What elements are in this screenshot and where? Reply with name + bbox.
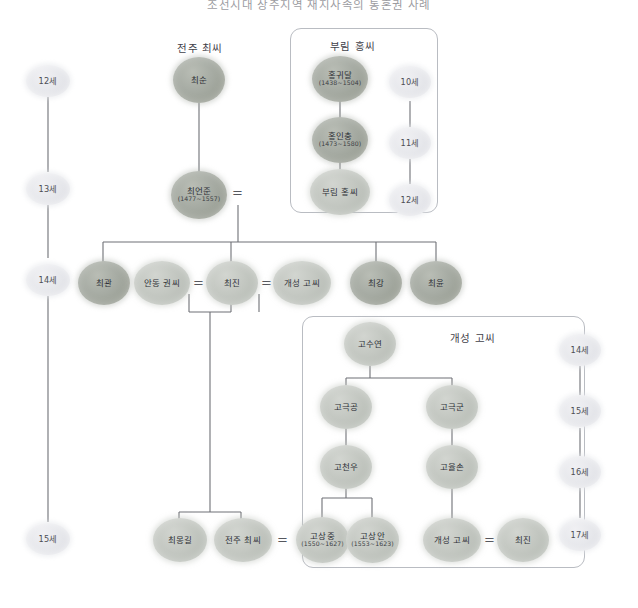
person-name: 부림 홍씨 <box>322 188 358 197</box>
person-node-gaeseong-go-bottom: 개성 고씨 <box>423 518 481 562</box>
gen-node-label: 14세 <box>570 346 589 355</box>
person-node-hong-gwidal: 홍귀달 (1438~1504) <box>312 56 368 102</box>
page-title: 조선시대 상주지역 재지사족의 통혼권 사례 <box>0 0 638 12</box>
gen-node-hong-10: 10세 <box>389 66 431 98</box>
person-name: 고수연 <box>358 340 383 349</box>
person-node-go-sangan: 고상안 (1553~1623) <box>346 517 399 563</box>
person-name: 전주 최씨 <box>225 536 261 545</box>
person-name: 안동 권씨 <box>144 279 180 288</box>
person-name: 최관 <box>96 279 112 288</box>
person-node-choi-monggil: 최몽길 <box>153 518 207 562</box>
person-name: 최윤 <box>428 279 444 288</box>
person-name: 최강 <box>368 279 384 288</box>
marriage-symbol-choi-jin-go: = <box>261 276 272 289</box>
gen-node-label: 13세 <box>38 185 57 194</box>
clan-label-hong: 부림 홍씨 <box>330 38 375 53</box>
person-node-go-geukgun: 고극군 <box>426 385 478 429</box>
person-name: 최진 <box>224 279 240 288</box>
marriage-symbol-go-choi-jin: = <box>484 533 495 546</box>
person-name: 개성 고씨 <box>284 279 320 288</box>
person-node-jeonju-choi-wife: 전주 최씨 <box>214 518 272 562</box>
gen-node-label: 17세 <box>570 531 589 540</box>
person-node-go-suyeon: 고수연 <box>344 322 396 366</box>
gen-node-label: 14세 <box>38 276 57 285</box>
person-name: 고극공 <box>334 403 359 412</box>
person-name: 고율손 <box>440 463 465 472</box>
gen-node-left-14: 14세 <box>26 264 70 296</box>
person-name: 최몽길 <box>168 536 193 545</box>
marriage-symbol-gwon-choi-jin: = <box>193 276 204 289</box>
marriage-symbol-choi-eonjun-hong: = <box>232 186 243 199</box>
gen-node-left-13: 13세 <box>26 173 70 205</box>
person-node-hong-inchung: 홍인충 (1473~1580) <box>312 117 368 163</box>
person-years: (1438~1504) <box>319 80 362 87</box>
person-node-gaeseong-go: 개성 고씨 <box>273 261 331 305</box>
person-node-choi-gwan: 최관 <box>78 261 130 305</box>
person-node-hong-clan-wife: 부림 홍씨 <box>310 169 370 215</box>
gen-node-label: 12세 <box>400 196 419 205</box>
gen-node-right-14: 14세 <box>559 334 601 366</box>
gen-node-right-17: 17세 <box>559 519 601 551</box>
gen-node-label: 11세 <box>400 139 419 148</box>
person-years: (1553~1623) <box>351 541 394 548</box>
gen-node-right-15: 15세 <box>559 395 601 427</box>
gen-node-label: 16세 <box>570 468 589 477</box>
gen-node-left-12: 12세 <box>26 65 70 97</box>
gen-node-hong-12: 12세 <box>389 184 431 216</box>
clan-label-go: 개성 고씨 <box>450 330 495 345</box>
person-node-go-cheonu: 고천우 <box>320 445 372 489</box>
person-name: 최진 <box>515 536 531 545</box>
person-node-choi-eonjun: 최언준 (1477~1557) <box>171 171 227 219</box>
person-node-andong-gwon: 안동 권씨 <box>134 261 190 305</box>
gen-node-hong-11: 11세 <box>389 127 431 159</box>
person-name: 최순 <box>191 76 207 85</box>
person-node-choi-yun: 최윤 <box>410 261 462 305</box>
genealogy-diagram: 조선시대 상주지역 재지사족의 통혼권 사례 <box>0 0 638 608</box>
person-name: 고극군 <box>440 403 465 412</box>
gen-node-label: 10세 <box>400 78 419 87</box>
person-years: (1550~1627) <box>301 541 344 548</box>
gen-node-right-16: 16세 <box>559 456 601 488</box>
clan-label-choi: 전주 최씨 <box>165 40 235 55</box>
gen-node-label: 15세 <box>38 535 57 544</box>
gen-node-label: 12세 <box>38 77 57 86</box>
person-years: (1473~1580) <box>319 141 362 148</box>
gen-node-left-15: 15세 <box>26 523 70 555</box>
person-node-choi-jin-bottom: 최진 <box>497 518 549 562</box>
gen-node-label: 15세 <box>570 407 589 416</box>
person-years: (1477~1557) <box>178 196 221 203</box>
person-node-choi-gang: 최강 <box>350 261 402 305</box>
person-node-choi-jin: 최진 <box>206 261 258 305</box>
person-node-go-yulson: 고율손 <box>426 445 478 489</box>
person-name: 고천우 <box>334 463 359 472</box>
person-node-go-sangjung: 고상중 (1550~1627) <box>296 517 349 563</box>
person-node-go-geukgong: 고극공 <box>320 385 372 429</box>
person-node-choi-sun: 최순 <box>173 57 225 103</box>
marriage-symbol-jeonju-choi-go: = <box>277 533 288 546</box>
person-name: 개성 고씨 <box>434 536 470 545</box>
